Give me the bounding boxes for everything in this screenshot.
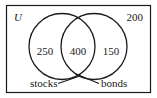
venn-diagram-canvas: U 200 250 400 150 stocks bonds — [0, 0, 157, 98]
outside-count-label: 200 — [127, 11, 144, 23]
left-only-count-label: 250 — [37, 45, 54, 57]
right-only-count-label: 150 — [103, 45, 120, 57]
right-set-label-bonds: bonds — [101, 77, 127, 89]
universe-label: U — [14, 11, 23, 23]
bonds-leader-line — [76, 74, 99, 84]
venn-diagram-figure: U 200 250 400 150 stocks bonds — [0, 0, 157, 98]
intersection-count-label: 400 — [70, 45, 87, 57]
left-set-label-stocks: stocks — [30, 77, 58, 89]
